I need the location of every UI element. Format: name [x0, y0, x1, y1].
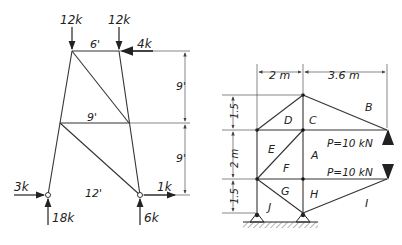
- dim-mid-width: 9': [87, 111, 97, 124]
- region-C: C: [309, 114, 317, 127]
- load-top-left: 12k: [60, 13, 83, 27]
- load-lower: P=10 kN: [327, 166, 373, 178]
- region-I: I: [365, 197, 368, 210]
- dim-left-width: 2 m: [269, 69, 290, 82]
- region-A: A: [310, 149, 319, 162]
- load-horizontal-top: 4k: [137, 37, 153, 51]
- dim-lower-height: 9': [176, 152, 186, 165]
- load-right-vertical: 6k: [144, 211, 160, 225]
- dim-bottom-height: 1.5: [229, 188, 240, 204]
- truss-diagrams: 12k 12k 4k 6' 9' 12' 9' 9' 3k 18k 1k 6k: [0, 0, 402, 245]
- right-truss: 2 m 3.6 m 1.5 2 m 1.5 D C B E F A G H I …: [222, 64, 388, 228]
- region-E: E: [268, 143, 275, 156]
- dim-top-width: 6': [90, 38, 100, 51]
- left-truss: 12k 12k 4k 6' 9' 12' 9' 9' 3k 18k 1k 6k: [14, 13, 190, 225]
- dim-mid-height: 2 m: [229, 148, 240, 168]
- load-upper: P=10 kN: [327, 137, 373, 149]
- load-left-vertical: 18k: [52, 211, 75, 225]
- region-J: J: [266, 201, 271, 214]
- dim-top-height: 1.5: [229, 103, 240, 119]
- region-G: G: [281, 185, 290, 198]
- load-top-right: 12k: [108, 13, 131, 27]
- load-right-horizontal: 1k: [157, 180, 173, 194]
- region-B: B: [365, 101, 373, 114]
- dim-bottom-width: 12': [85, 187, 102, 200]
- region-F: F: [283, 162, 290, 175]
- dim-upper-height: 9': [176, 80, 186, 93]
- load-left-horizontal: 3k: [14, 180, 30, 194]
- region-H: H: [310, 188, 318, 201]
- region-D: D: [284, 114, 292, 127]
- dim-right-width: 3.6 m: [328, 69, 360, 82]
